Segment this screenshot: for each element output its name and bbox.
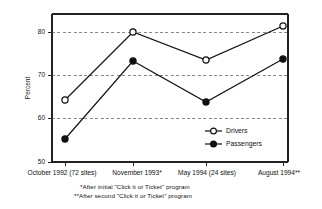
- legend-entry-passengers: Passengers: [205, 140, 262, 148]
- y-tick-label-50: 50: [38, 158, 46, 165]
- legend-label-drivers: Drivers: [226, 127, 248, 134]
- legend: Drivers Passengers: [205, 127, 262, 148]
- x-tick-label-2: May 1994 (24 sites): [178, 169, 236, 177]
- data-point-drivers-0: [62, 97, 68, 103]
- y-tick-label-80: 80: [38, 28, 46, 35]
- data-point-passengers-2: [203, 99, 209, 105]
- data-point-passengers-0: [62, 136, 68, 142]
- series-line-drivers: [65, 26, 283, 100]
- y-axis-title: Percent: [24, 77, 31, 100]
- series-line-passengers: [65, 59, 283, 139]
- data-point-drivers-2: [203, 57, 209, 63]
- chart-container: 80 70 60 50 Percent October 1992 (72 sit…: [0, 0, 322, 209]
- data-point-passengers-1: [130, 58, 136, 64]
- data-point-drivers-1: [130, 29, 136, 35]
- legend-label-passengers: Passengers: [226, 140, 262, 148]
- legend-entry-drivers: Drivers: [205, 127, 248, 134]
- data-point-drivers-3: [280, 23, 286, 29]
- data-point-passengers-3: [280, 56, 286, 62]
- legend-marker-filled-circle-icon: [211, 141, 217, 147]
- legend-marker-open-circle-icon: [211, 128, 217, 134]
- x-tick-label-1: November 1993*: [112, 169, 162, 176]
- x-tick-label-0: October 1992 (72 sites): [28, 169, 97, 177]
- footnote-double-asterisk: **After second "Click it or Ticket" prog…: [74, 192, 192, 199]
- y-tick-label-60: 60: [38, 114, 46, 121]
- y-tick-label-70: 70: [38, 71, 46, 78]
- line-chart: 80 70 60 50 Percent October 1992 (72 sit…: [0, 0, 322, 209]
- footnote-single-asterisk: *After initial "Click it or Ticket" prog…: [80, 183, 190, 190]
- x-tick-label-3: August 1994**: [258, 169, 301, 177]
